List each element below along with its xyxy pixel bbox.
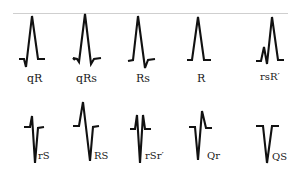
label-Rs: Rs <box>136 73 150 84</box>
label-rSr-prime: rSr′ <box>145 151 164 161</box>
label-RS: RS <box>94 151 108 161</box>
label-rsR-prime: rsR′ <box>260 72 280 82</box>
waveform-qR <box>19 16 45 67</box>
waveform-qRs <box>73 14 101 64</box>
qrs-waveforms <box>0 0 303 173</box>
label-rS: rS <box>38 151 50 161</box>
waveform-Rs <box>128 16 155 68</box>
label-Qr: Qr <box>207 151 220 161</box>
waveform-rsR-prime <box>256 17 284 64</box>
label-qR: qR <box>27 73 42 84</box>
waveform-R <box>187 17 211 60</box>
label-R: R <box>197 73 205 84</box>
label-qRs: qRs <box>76 73 97 84</box>
waveform-qRs-left-tick <box>73 58 75 60</box>
label-QS: QS <box>272 152 287 162</box>
